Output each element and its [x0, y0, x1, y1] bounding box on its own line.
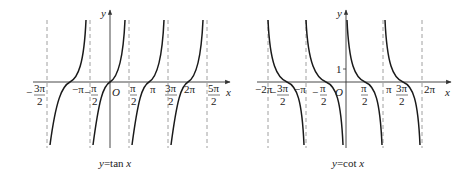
cot-tick-3pi-2: 3π 2: [396, 82, 408, 107]
cot-tick-neg-pi: −π: [294, 83, 306, 95]
tan-y-label: y: [100, 7, 106, 19]
svg-text:2: 2: [92, 95, 98, 107]
trig-graphs: y x O − 3π 2 −π − π 2 π 2 π 3π: [0, 0, 459, 178]
tan-x-label: x: [225, 86, 231, 98]
svg-text:5π: 5π: [208, 82, 220, 94]
cot-tick-neg-pi-2: − π 2: [312, 82, 327, 107]
svg-text:2: 2: [362, 95, 368, 107]
svg-text:2: 2: [211, 95, 217, 107]
svg-text:2: 2: [399, 95, 405, 107]
tan-tick-neg-pi-2: − π 2: [84, 82, 98, 107]
cot-tick-2pi: 2π: [424, 83, 436, 95]
tan-tick-3pi-2: 3π 2: [165, 82, 177, 107]
svg-text:3π: 3π: [396, 82, 408, 94]
svg-text:2: 2: [37, 95, 43, 107]
svg-text:2: 2: [321, 95, 327, 107]
tan-tick-pi-2: π 2: [130, 82, 137, 107]
svg-text:−: −: [84, 86, 90, 98]
cot-one-label: 1: [336, 63, 342, 75]
svg-text:−: −: [26, 86, 32, 98]
cot-tick-neg-3pi-2: − 3π 2: [270, 82, 289, 107]
tan-tick-2pi: 2π: [184, 83, 196, 95]
cot-x-label: x: [444, 86, 450, 98]
svg-text:π: π: [361, 82, 367, 94]
cot-graph: y x O 1 −2π − 3π 2 −π − π 2 π 2 π: [255, 7, 451, 169]
svg-text:2: 2: [131, 95, 137, 107]
cot-y-label: y: [336, 7, 342, 19]
svg-text:−: −: [270, 86, 276, 98]
cot-tick-pi: π: [386, 83, 392, 95]
tan-asymptotes: [47, 20, 207, 148]
svg-text:2: 2: [280, 95, 286, 107]
svg-text:−: −: [312, 86, 318, 98]
svg-text:2: 2: [168, 95, 174, 107]
tan-origin-label: O: [112, 86, 120, 98]
svg-text:3π: 3π: [34, 82, 46, 94]
cot-tick-pi-2: π 2: [361, 82, 368, 107]
tan-tick-pi: π: [150, 83, 156, 95]
tan-tick-5pi-2: 5π 2: [208, 82, 220, 107]
tan-tick-neg-3pi-2: − 3π 2: [26, 82, 46, 107]
cot-caption: y=cot x: [331, 157, 364, 169]
cot-origin-label: O: [335, 86, 343, 98]
svg-text:π: π: [91, 82, 97, 94]
tan-graph: y x O − 3π 2 −π − π 2 π 2 π 3π: [26, 7, 231, 169]
tan-caption: y=tan x: [98, 157, 131, 169]
svg-text:3π: 3π: [277, 82, 289, 94]
svg-text:π: π: [130, 82, 136, 94]
tan-tick-neg-pi: −π: [72, 83, 84, 95]
svg-text:π: π: [320, 82, 326, 94]
svg-text:3π: 3π: [165, 82, 177, 94]
